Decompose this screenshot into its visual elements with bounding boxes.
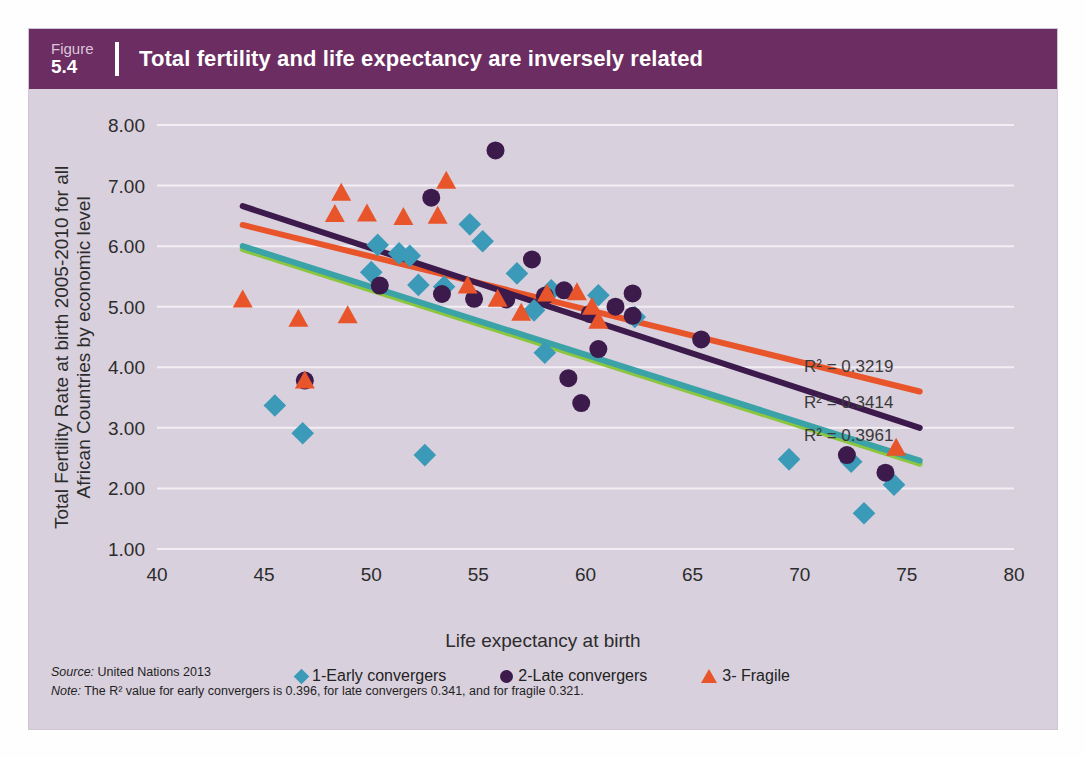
data-point-late-convergers [589, 340, 607, 358]
x-tick-label: 45 [254, 564, 275, 585]
note-line: Note: The R² value for early convergers … [51, 682, 584, 701]
legend-item-fragile[interactable]: 3- Fragile [701, 667, 790, 685]
data-point-late-convergers [559, 369, 577, 387]
note-value: The R² value for early convergers is 0.3… [81, 684, 584, 698]
y-tick-label: 5.00 [108, 297, 145, 318]
data-point-late-convergers [838, 446, 856, 464]
note-label: Note: [51, 684, 81, 698]
data-point-late-convergers [487, 141, 505, 159]
data-point-early-convergers [264, 394, 287, 417]
source-label: Source: [51, 665, 94, 679]
header-divider [115, 42, 119, 76]
figure-label: Figure [51, 41, 115, 57]
data-point-late-convergers [606, 298, 624, 316]
source-line: Source: United Nations 2013 [51, 663, 584, 682]
data-point-fragile [325, 204, 345, 222]
figure-header: Figure 5.4 Total fertility and life expe… [29, 29, 1057, 89]
triangle-marker-icon [701, 669, 717, 683]
y-tick-label: 6.00 [108, 236, 145, 257]
data-point-fragile [338, 305, 358, 323]
figure-title: Total fertility and life expectancy are … [139, 46, 703, 72]
r2-annotation: R² = 0.3961 [804, 426, 893, 445]
data-point-late-convergers [624, 284, 642, 302]
data-point-early-convergers [778, 448, 801, 471]
data-point-fragile [233, 289, 253, 307]
r2-annotation: R² = 0.3219 [804, 357, 893, 376]
figure-card: Figure 5.4 Total fertility and life expe… [28, 28, 1058, 730]
data-point-late-convergers [624, 307, 642, 325]
y-axis-title: Total Fertility Rate at birth 2005-2010 … [51, 137, 96, 557]
chart-plot-area: 1.002.003.004.005.006.007.008.0040455055… [29, 89, 1057, 731]
data-point-early-convergers [291, 422, 314, 445]
data-point-early-convergers [506, 262, 529, 285]
data-point-late-convergers [523, 250, 541, 268]
y-tick-label: 3.00 [108, 418, 145, 439]
data-point-late-convergers [876, 464, 894, 482]
data-point-fragile [428, 206, 448, 224]
r2-annotation: R² = 0.3414 [804, 393, 893, 412]
figure-number-block: Figure 5.4 [29, 41, 115, 77]
source-value: United Nations 2013 [94, 665, 211, 679]
x-tick-label: 50 [361, 564, 382, 585]
data-point-early-convergers [458, 213, 481, 236]
data-point-early-convergers [471, 230, 494, 253]
x-axis-title: Life expectancy at birth [29, 630, 1057, 652]
data-point-early-convergers [413, 444, 436, 467]
scatter-chart: 1.002.003.004.005.006.007.008.0040455055… [29, 89, 1057, 629]
y-tick-label: 1.00 [108, 539, 145, 560]
x-tick-label: 40 [146, 564, 167, 585]
figure-footnotes: Source: United Nations 2013 Note: The R²… [51, 663, 584, 702]
data-point-late-convergers [433, 285, 451, 303]
data-point-late-convergers [422, 189, 440, 207]
x-tick-label: 80 [1003, 564, 1024, 585]
legend-label-fragile: 3- Fragile [722, 667, 790, 685]
data-point-late-convergers [572, 394, 590, 412]
x-tick-label: 60 [575, 564, 596, 585]
x-tick-label: 55 [468, 564, 489, 585]
y-tick-label: 7.00 [108, 176, 145, 197]
y-tick-label: 2.00 [108, 478, 145, 499]
x-tick-label: 70 [789, 564, 810, 585]
x-tick-label: 65 [682, 564, 703, 585]
figure-page: Figure 5.4 Total fertility and life expe… [0, 0, 1085, 757]
data-point-fragile [393, 207, 413, 225]
data-point-early-convergers [407, 274, 430, 297]
y-tick-label: 4.00 [108, 357, 145, 378]
data-point-fragile [357, 203, 377, 221]
x-tick-label: 75 [896, 564, 917, 585]
figure-number: 5.4 [51, 57, 115, 77]
y-tick-label: 8.00 [108, 115, 145, 136]
data-point-fragile [288, 309, 308, 327]
data-point-late-convergers [692, 330, 710, 348]
data-point-fragile [436, 171, 456, 189]
data-point-early-convergers [853, 502, 876, 525]
data-point-late-convergers [371, 277, 389, 295]
